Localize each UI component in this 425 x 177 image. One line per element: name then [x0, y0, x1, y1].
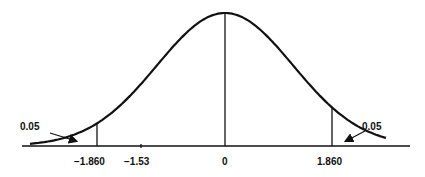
tick-label-neg-critical: −1.860: [74, 156, 105, 167]
distribution-chart: 0.05 0.05 −1.860 −1.53 0 1.860: [0, 0, 425, 177]
right-tail-arrow: [346, 131, 365, 141]
right-tail-label: 0.05: [362, 121, 382, 132]
left-tail-label: 0.05: [20, 121, 40, 132]
tick-label-observed: −1.53: [124, 156, 150, 167]
tick-label-pos-critical: 1.860: [317, 156, 342, 167]
tick-label-zero: 0: [222, 156, 228, 167]
